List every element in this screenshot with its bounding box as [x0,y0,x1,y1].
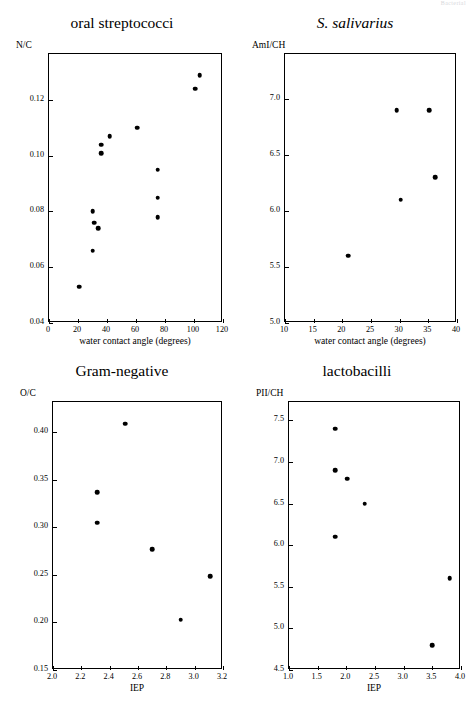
chart-xlabel-s-salivarius: water contact angle (degrees) [284,336,456,346]
data-point [99,142,104,147]
xtick-gram-negative-5 [195,666,196,670]
chart-panel-oral-streptococci: oral streptococciN/C0.040.060.080.100.12… [8,14,236,358]
ytick-oral-streptococci-2 [49,211,53,212]
chart-panel-s-salivarius: S. salivariusAmI/CH5.05.56.06.57.0101520… [240,14,470,358]
data-point [77,284,82,289]
data-point [198,73,203,78]
data-point [362,501,367,506]
xticklabel-s-salivarius-0: 10 [270,325,298,334]
yticklabel-gram-negative-2: 0.25 [18,569,48,578]
data-point [333,535,338,540]
ytick-s-salivarius-4 [285,99,289,100]
yticklabel-lactobacilli-4: 6.5 [254,498,284,507]
xticklabel-s-salivarius-2: 20 [327,325,355,334]
yticklabel-gram-negative-3: 0.30 [18,521,48,530]
xticklabel-gram-negative-6: 3.2 [208,672,236,681]
yticklabel-lactobacilli-2: 5.5 [254,581,284,590]
yticklabel-gram-negative-5: 0.40 [18,426,48,435]
ytick-lactobacilli-4 [289,504,293,505]
xtick-oral-streptococci-1 [78,319,79,323]
data-point [208,574,213,579]
xticklabel-s-salivarius-6: 40 [442,325,470,334]
chart-title-oral-streptococci: oral streptococci [8,14,236,32]
xtick-s-salivarius-1 [314,319,315,323]
plot-frame-lactobacilli [288,401,460,669]
ytick-lactobacilli-3 [289,545,293,546]
xticklabel-oral-streptococci-6: 120 [208,325,236,334]
chart-title-gram-negative: Gram-negative [8,362,236,380]
chart-xlabel-gram-negative: IEP [52,683,222,693]
xticklabel-gram-negative-3: 2.6 [123,672,151,681]
xticklabel-lactobacilli-1: 1.5 [303,672,331,681]
xticklabel-oral-streptococci-2: 40 [92,325,120,334]
data-point [150,547,155,552]
ytick-lactobacilli-2 [289,587,293,588]
xtick-lactobacilli-3 [375,666,376,670]
data-point [155,167,160,172]
yticklabel-s-salivarius-4: 7.0 [250,93,280,102]
data-point [95,520,100,525]
yticklabel-lactobacilli-5: 7.0 [254,456,284,465]
yticklabel-oral-streptococci-3: 0.10 [14,150,44,159]
xtick-gram-negative-0 [53,666,54,670]
xticklabel-oral-streptococci-4: 80 [150,325,178,334]
data-point [99,151,104,156]
ytick-gram-negative-3 [53,527,57,528]
chart-ylabel-lactobacilli: PII/CH [256,388,283,398]
xticklabel-lactobacilli-5: 3.5 [417,672,445,681]
ytick-gram-negative-2 [53,575,57,576]
xticklabel-lactobacilli-3: 2.5 [360,672,388,681]
data-point [433,175,438,180]
ytick-lactobacilli-5 [289,462,293,463]
data-point [399,197,404,202]
xticklabel-oral-streptococci-0: 0 [34,325,62,334]
yticklabel-s-salivarius-2: 6.0 [250,205,280,214]
data-point [430,643,435,648]
ytick-lactobacilli-0 [289,670,293,671]
ytick-oral-streptococci-4 [49,100,53,101]
xtick-oral-streptococci-4 [165,319,166,323]
ytick-oral-streptococci-1 [49,267,53,268]
data-point [90,248,95,253]
xtick-s-salivarius-3 [371,319,372,323]
xtick-lactobacilli-0 [289,666,290,670]
chart-ylabel-oral-streptococci: N/C [16,40,32,50]
xticklabel-s-salivarius-5: 35 [413,325,441,334]
xticklabel-lactobacilli-0: 1.0 [274,672,302,681]
ytick-gram-negative-4 [53,480,57,481]
data-point [178,617,183,622]
yticklabel-s-salivarius-1: 5.5 [250,261,280,270]
yticklabel-s-salivarius-3: 6.5 [250,149,280,158]
xticklabel-s-salivarius-4: 30 [385,325,413,334]
ytick-s-salivarius-0 [285,323,289,324]
xticklabel-gram-negative-4: 2.8 [151,672,179,681]
plot-frame-gram-negative [52,401,222,669]
yticklabel-gram-negative-1: 0.20 [18,616,48,625]
chart-panel-lactobacilli: lactobacilliPII/CH4.55.05.56.06.57.07.51… [240,362,474,705]
yticklabel-oral-streptococci-4: 0.12 [14,94,44,103]
xtick-s-salivarius-4 [400,319,401,323]
data-point [333,426,338,431]
data-point [193,87,198,92]
ytick-gram-negative-0 [53,670,57,671]
xtick-oral-streptococci-2 [107,319,108,323]
xtick-s-salivarius-6 [457,319,458,323]
xticklabel-gram-negative-5: 3.0 [180,672,208,681]
data-point [95,490,100,495]
xtick-lactobacilli-4 [404,666,405,670]
xtick-oral-streptococci-5 [194,319,195,323]
yticklabel-oral-streptococci-2: 0.08 [14,205,44,214]
data-point [123,422,128,427]
xticklabel-lactobacilli-2: 2.0 [331,672,359,681]
xticklabel-oral-streptococci-1: 20 [63,325,91,334]
xtick-s-salivarius-0 [285,319,286,323]
data-point [90,209,95,214]
xtick-gram-negative-4 [166,666,167,670]
xtick-lactobacilli-6 [461,666,462,670]
ytick-s-salivarius-2 [285,211,289,212]
xticklabel-lactobacilli-6: 4.0 [446,672,474,681]
data-point [96,226,101,231]
xtick-oral-streptococci-0 [49,319,50,323]
ytick-lactobacilli-1 [289,628,293,629]
ytick-gram-negative-5 [53,432,57,433]
